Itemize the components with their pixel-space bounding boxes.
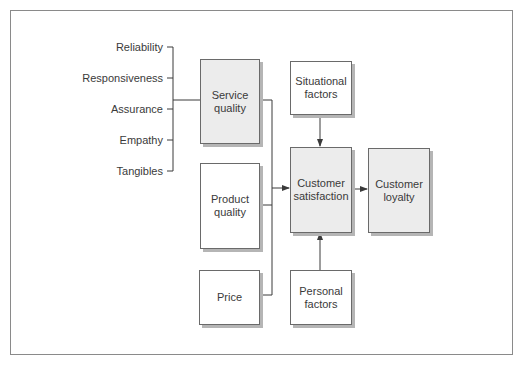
customer-loyalty-box: Customer loyalty — [368, 148, 430, 233]
customer-loyalty-label: Customer loyalty — [375, 178, 423, 204]
customer-satisfaction-box: Customer satisfaction — [290, 147, 352, 233]
price-box: Price — [199, 270, 260, 325]
dimension-tangibles: Tangibles — [43, 164, 163, 178]
product-quality-label: Product quality — [211, 193, 249, 219]
connector-lines — [0, 0, 522, 365]
price-label: Price — [217, 291, 242, 304]
service-quality-box: Service quality — [200, 59, 260, 144]
dimension-empathy: Empathy — [43, 133, 163, 147]
service-quality-label: Service quality — [212, 89, 249, 115]
dimension-responsiveness: Responsiveness — [43, 71, 163, 85]
dimension-assurance: Assurance — [43, 102, 163, 116]
personal-factors-label: Personal factors — [299, 285, 342, 311]
product-quality-box: Product quality — [200, 163, 260, 249]
situational-factors-label: Situational factors — [295, 75, 346, 101]
situational-factors-box: Situational factors — [290, 61, 352, 115]
personal-factors-box: Personal factors — [290, 270, 352, 325]
dimension-reliability: Reliability — [43, 40, 163, 54]
customer-satisfaction-label: Customer satisfaction — [293, 177, 348, 203]
